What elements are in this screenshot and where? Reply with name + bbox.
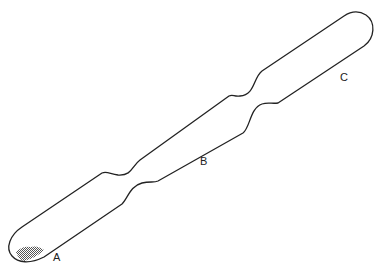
label-c: C bbox=[340, 72, 348, 83]
tube-outline bbox=[9, 12, 373, 262]
label-b: B bbox=[200, 156, 207, 167]
label-a: A bbox=[53, 252, 60, 263]
tube-diagram bbox=[0, 0, 386, 271]
